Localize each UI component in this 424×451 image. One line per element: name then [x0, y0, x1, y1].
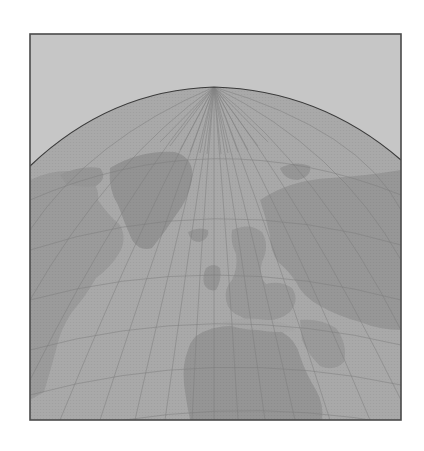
map-figure	[0, 0, 424, 451]
globe-map	[0, 0, 424, 451]
